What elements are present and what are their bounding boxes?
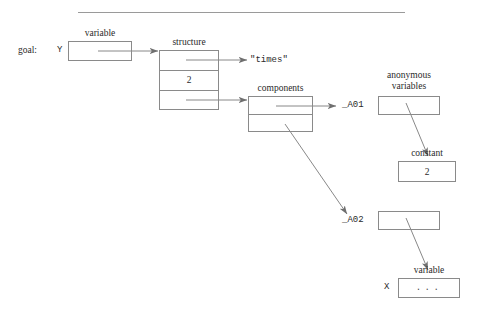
variable-x-contents: ...	[399, 283, 459, 293]
structure-cell-arity: 2	[160, 71, 218, 91]
functor-literal: "times"	[250, 55, 288, 66]
structure-arity-value: 2	[160, 75, 218, 85]
anon-ref-a02: _A02	[342, 215, 364, 226]
diagram-canvas: goal: Y variable structure 2 "times" com…	[0, 0, 477, 311]
structure-box: 2	[159, 50, 219, 110]
caption-anonymous-variables-line1: anonymous	[378, 70, 440, 81]
constant-box: 2	[398, 161, 456, 182]
caption-components: components	[248, 83, 313, 94]
caption-constant: constant	[398, 148, 456, 159]
anonymous-variable-a01-box	[378, 96, 440, 115]
structure-cell-components	[160, 91, 218, 110]
variable-y-name: Y	[57, 45, 62, 56]
components-cell-head	[249, 97, 312, 115]
components-cell-tail	[249, 115, 312, 132]
arrow-components-to-a02	[285, 124, 347, 214]
components-box	[248, 96, 313, 132]
anon-ref-a01: _A01	[342, 100, 364, 111]
variable-y-box	[68, 41, 132, 61]
structure-cell-functor	[160, 51, 218, 71]
caption-anonymous-variables-line2: variables	[378, 81, 440, 92]
anonymous-variable-a02-box	[378, 211, 440, 230]
caption-variable-x: variable	[398, 265, 460, 276]
goal-label: goal:	[18, 45, 37, 56]
caption-variable-y: variable	[68, 28, 132, 39]
caption-structure: structure	[159, 37, 219, 48]
variable-x-name: X	[384, 282, 389, 293]
constant-value: 2	[399, 167, 455, 177]
variable-x-box: ...	[398, 278, 460, 298]
